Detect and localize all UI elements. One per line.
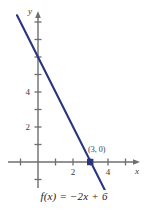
x-tick-label-4: 4 [106, 167, 111, 177]
coordinate-plane: 2 4 2 4 y x (3, 0) [0, 0, 148, 190]
y-tick-label-4: 4 [26, 87, 31, 97]
function-caption: f(x) = −2x + 6 [0, 190, 148, 202]
linear-function-figure: 2 4 2 4 y x (3, 0) f(x) = −2x + 6 [0, 0, 148, 217]
function-line [17, 15, 110, 190]
x-axis-arrow-icon [133, 159, 140, 165]
x-intercept-label: (3, 0) [88, 145, 106, 154]
y-axis-arrow-icon [35, 11, 41, 18]
x-axis-label: x [134, 166, 139, 176]
y-tick-label-2: 2 [26, 122, 31, 132]
x-tick-label-2: 2 [71, 167, 76, 177]
y-axis-label: y [27, 6, 32, 16]
x-intercept-marker [87, 159, 93, 165]
